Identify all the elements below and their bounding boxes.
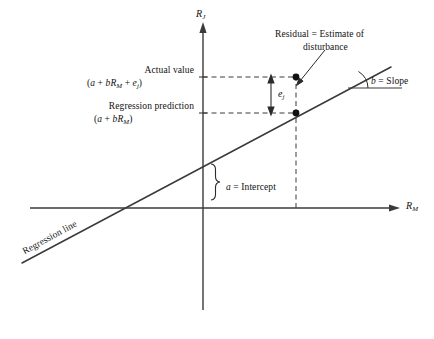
- y-axis-arrowhead: [199, 22, 206, 33]
- regression-prediction-caption: Regression prediction (a + bRM): [20, 100, 194, 129]
- slope-angle-arc: [359, 72, 369, 89]
- x-axis-label: RM: [406, 200, 418, 215]
- residual-caption: Residual = Estimate of disturbance: [275, 28, 364, 54]
- figure-canvas: [0, 0, 434, 339]
- residual-caption-line1: Residual = Estimate of: [275, 28, 364, 41]
- actual-value-caption-line1: Actual value: [39, 64, 194, 77]
- residual-leader: [297, 50, 326, 86]
- intercept-label: a = Intercept: [226, 181, 276, 193]
- regression-prediction-point: [293, 110, 300, 117]
- actual-value-caption-formula: (a + bRM + ej): [39, 77, 194, 93]
- residual-caption-line2: disturbance: [275, 41, 364, 54]
- residual-leader-line: [300, 50, 325, 81]
- actual-value-caption: Actual value (a + bRM + ej): [39, 64, 194, 93]
- residual-arrow: [268, 75, 274, 115]
- residual-symbol-label: ej: [278, 88, 285, 103]
- residual-arrow-head-up: [268, 75, 274, 83]
- x-axis-arrowhead: [389, 204, 400, 211]
- slope-label: b = Slope: [371, 75, 408, 87]
- regression-line: [22, 67, 391, 263]
- prediction-caption-line1: Regression prediction: [20, 100, 194, 113]
- regression-figure: RJ RM Residual = Estimate of disturbance…: [0, 0, 434, 339]
- intercept-brace: [211, 164, 220, 200]
- residual-arrow-head-down: [268, 107, 274, 115]
- prediction-caption-formula: (a + bRM): [20, 113, 194, 129]
- y-axis-label: RJ: [196, 8, 205, 23]
